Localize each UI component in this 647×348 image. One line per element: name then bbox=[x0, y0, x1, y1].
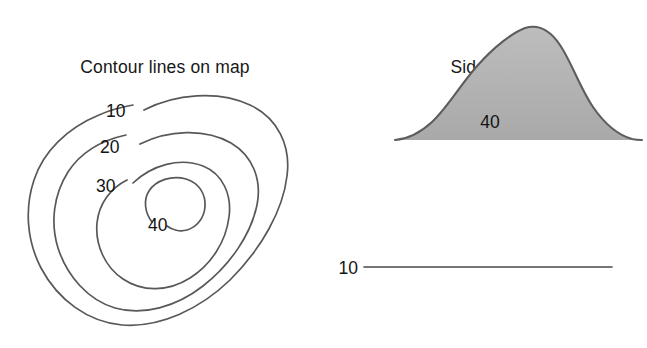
side-view-svg: 40 10 bbox=[330, 0, 647, 348]
contour-line-10 bbox=[28, 96, 287, 326]
contour-label-20: 20 bbox=[100, 137, 120, 157]
contour-label-10: 10 bbox=[106, 101, 126, 121]
contour-map-svg: 10 20 30 40 bbox=[0, 0, 330, 348]
figure-root: Contour lines on map 10 20 30 40 Side vi… bbox=[0, 0, 647, 348]
side-view-panel: Side view 40 10 bbox=[330, 0, 647, 348]
peak-label-40: 40 bbox=[480, 112, 500, 132]
contour-label-40: 40 bbox=[148, 215, 168, 235]
base-label-10: 10 bbox=[339, 258, 359, 278]
contour-label-30: 30 bbox=[96, 176, 116, 196]
contour-map-panel: Contour lines on map 10 20 30 40 bbox=[0, 0, 330, 348]
